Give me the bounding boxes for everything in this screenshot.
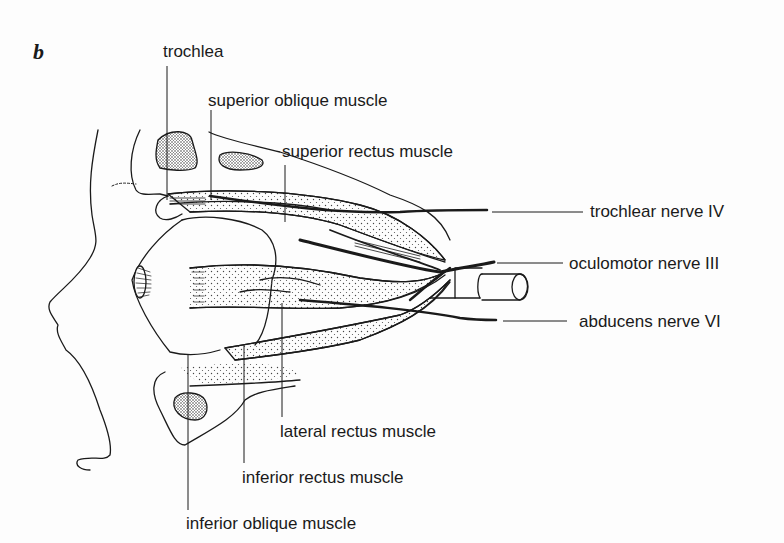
label-superior-oblique-muscle: superior oblique muscle: [208, 92, 388, 109]
label-trochlear-nerve: trochlear nerve IV: [590, 203, 724, 220]
frontal-bone-section: [156, 132, 197, 171]
label-inferior-oblique-muscle: inferior oblique muscle: [186, 515, 356, 532]
label-lateral-rectus-muscle: lateral rectus muscle: [280, 423, 436, 440]
face-profile-outline: [49, 130, 111, 470]
panel-letter: b: [33, 39, 44, 65]
label-inferior-rectus-muscle: inferior rectus muscle: [242, 469, 404, 486]
cornea: [134, 266, 146, 298]
orbital-roof-section: [219, 152, 263, 170]
label-trochlea: trochlea: [163, 43, 223, 60]
label-abducens-nerve: abducens nerve VI: [579, 313, 721, 330]
label-superior-rectus-muscle: superior rectus muscle: [282, 143, 453, 160]
maxillary-section: [174, 393, 207, 420]
label-oculomotor-nerve: oculomotor nerve III: [569, 255, 719, 272]
